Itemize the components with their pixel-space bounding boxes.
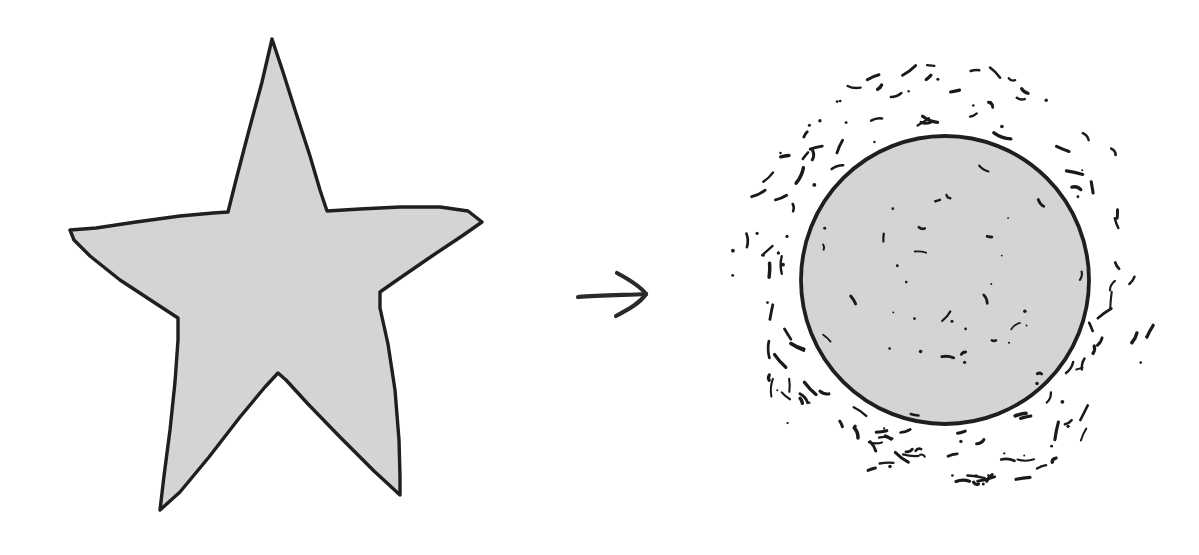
- halo-dash: [885, 436, 891, 439]
- halo-dot: [959, 440, 962, 443]
- halo-dot: [1000, 125, 1004, 129]
- halo-dot: [972, 104, 975, 107]
- halo-dash: [1110, 292, 1112, 309]
- halo-dot: [873, 141, 875, 143]
- halo-dot: [1023, 454, 1025, 456]
- halo-dash: [1009, 78, 1016, 80]
- halo-dash: [810, 146, 822, 149]
- interior-dot: [1007, 217, 1009, 219]
- halo-dot: [1145, 336, 1147, 338]
- halo-dash: [977, 440, 984, 444]
- halo-dot: [1139, 361, 1142, 364]
- interior-dot: [990, 283, 992, 285]
- interior-dash: [919, 227, 925, 229]
- halo-dot: [1060, 400, 1064, 404]
- halo-dash: [1110, 281, 1115, 291]
- halo-dash: [803, 152, 808, 159]
- halo-dot: [836, 100, 839, 103]
- halo-dash: [1066, 362, 1073, 373]
- interior-dot: [1008, 342, 1010, 344]
- interior-dash: [992, 340, 996, 341]
- halo-dash: [903, 454, 919, 456]
- interior-dot: [963, 361, 966, 364]
- halo-dash: [769, 263, 770, 277]
- arrow-barb-lower: [616, 294, 646, 316]
- halo-dash: [1083, 133, 1089, 140]
- halo-dash: [971, 70, 980, 71]
- interior-dot: [1035, 382, 1038, 385]
- halo-dash: [793, 204, 794, 211]
- star-shape: [70, 39, 482, 510]
- interior-dot: [964, 328, 967, 331]
- halo-dash: [1081, 429, 1086, 441]
- halo-dash: [804, 132, 807, 137]
- halo-dash: [868, 468, 875, 470]
- halo-dash: [1091, 182, 1093, 193]
- halo-dot: [731, 274, 734, 277]
- halo-dot: [883, 427, 885, 429]
- interior-dot: [888, 347, 891, 350]
- halo-dash: [1055, 422, 1059, 440]
- halo-dot: [1045, 99, 1048, 102]
- halo-dot: [777, 251, 780, 254]
- arrow-barb-upper: [617, 273, 646, 294]
- interior-dash: [911, 414, 919, 415]
- halo-dot: [812, 183, 816, 187]
- halo-dot: [779, 152, 781, 154]
- halo-dash: [775, 355, 786, 368]
- halo-dash: [1065, 420, 1072, 424]
- interior-dot: [1026, 325, 1028, 327]
- halo-dash: [891, 93, 902, 97]
- halo-dash: [752, 190, 765, 197]
- halo-dash: [1080, 406, 1087, 421]
- halo-dash: [800, 398, 802, 403]
- transformation-arrow: [578, 273, 646, 316]
- halo-dash: [869, 442, 882, 443]
- halo-dash: [927, 65, 934, 66]
- halo-dash: [1129, 277, 1134, 284]
- halo-dash: [1066, 171, 1082, 175]
- halo-dash: [1132, 333, 1137, 343]
- interior-dot: [891, 207, 894, 210]
- halo-dash: [989, 102, 993, 107]
- stippled-circle-shape: [731, 65, 1153, 485]
- halo-dash: [781, 156, 789, 157]
- halo-dash: [880, 463, 894, 464]
- halo-dot: [776, 389, 778, 391]
- halo-dash: [1022, 89, 1029, 94]
- halo-dash: [854, 428, 858, 438]
- interior-dash: [1037, 373, 1041, 374]
- halo-dash: [1089, 323, 1093, 331]
- interior-dot: [1023, 309, 1027, 313]
- halo-dash: [804, 382, 816, 394]
- halo-dot: [845, 121, 848, 124]
- halo-dash: [771, 379, 773, 397]
- halo-dash: [920, 455, 925, 457]
- interior-dash: [942, 356, 954, 358]
- interior-dot: [892, 311, 894, 313]
- halo-dash: [762, 246, 772, 255]
- halo-dash: [1037, 465, 1046, 468]
- halo-dash: [747, 234, 748, 248]
- halo-dash: [1018, 459, 1035, 460]
- halo-dash: [854, 407, 867, 416]
- halo-dot: [936, 78, 939, 81]
- halo-dot: [1066, 425, 1069, 428]
- halo-dash: [901, 430, 911, 433]
- halo-dash: [832, 165, 843, 169]
- halo-dash: [770, 305, 773, 320]
- halo-dash: [926, 75, 931, 79]
- interior-dash: [987, 236, 992, 237]
- halo-dash: [1072, 187, 1081, 190]
- halo-dash: [789, 379, 790, 392]
- interior-dot: [950, 320, 953, 323]
- halo-dash: [1115, 263, 1119, 269]
- halo-dash: [871, 118, 882, 120]
- halo-dot: [951, 474, 954, 477]
- halo-dash: [1016, 477, 1030, 479]
- halo-dash: [763, 173, 773, 182]
- halo-dash: [1015, 413, 1026, 416]
- halo-dash: [994, 133, 1011, 139]
- halo-dash: [784, 329, 791, 340]
- arrow-shaft: [578, 294, 646, 297]
